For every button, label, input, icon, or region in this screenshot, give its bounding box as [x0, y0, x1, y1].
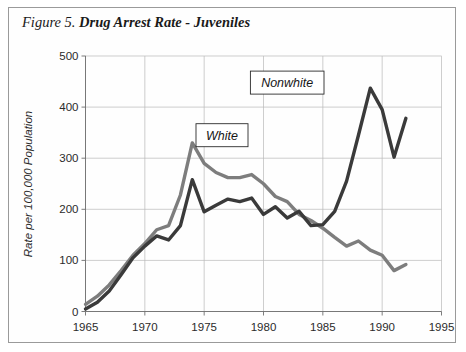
series-line-white [86, 143, 406, 304]
series-label-nonwhite: Nonwhite [250, 71, 324, 94]
chart-canvas: 0100200300400500 19651970197519801985199… [0, 0, 466, 352]
y-tick-label: 100 [59, 254, 78, 266]
y-tick-label: 0 [72, 306, 78, 318]
y-tick-label: 400 [59, 101, 78, 113]
x-tick-label: 1995 [429, 321, 455, 333]
y-tick-label: 300 [59, 152, 78, 164]
x-tick-labels-group: 1965197019751980198519901995 [73, 321, 455, 333]
series-label-text: White [206, 129, 238, 143]
axes-group [82, 56, 442, 316]
y-tick-labels-group: 0100200300400500 [59, 50, 78, 318]
x-tick-label: 1975 [191, 321, 217, 333]
series-label-white: White [196, 124, 248, 147]
series-line-nonwhite [86, 88, 406, 309]
x-tick-label: 1965 [73, 321, 99, 333]
series-annotations-group: WhiteNonwhite [196, 71, 324, 147]
y-axis-title: Rate per 100,000 Population [22, 111, 34, 257]
y-tick-label: 500 [59, 50, 78, 62]
x-tick-label: 1980 [251, 321, 277, 333]
x-tick-label: 1985 [310, 321, 336, 333]
series-label-text: Nonwhite [261, 76, 313, 90]
line-chart: 0100200300400500 19651970197519801985199… [0, 0, 466, 352]
x-tick-label: 1970 [132, 321, 158, 333]
x-tick-label: 1990 [369, 321, 395, 333]
y-tick-label: 200 [59, 203, 78, 215]
series-lines-group [86, 88, 406, 309]
